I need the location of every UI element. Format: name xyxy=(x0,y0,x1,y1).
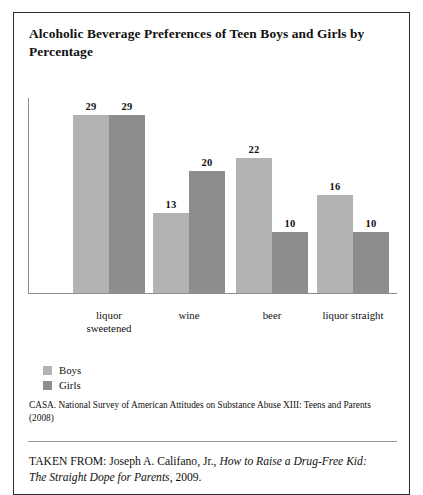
legend-label-girls: Girls xyxy=(59,380,81,391)
bar-girls-liquor-sweetened xyxy=(109,115,145,293)
figure-card: Alcoholic Beverage Preferences of Teen B… xyxy=(13,12,410,495)
bar-boys-liquor-straight xyxy=(317,195,353,293)
chart-plot-area: 2929132022101610 xyxy=(28,98,398,306)
bar-group: 2210 xyxy=(236,97,308,293)
bar-boys-wine xyxy=(153,213,189,293)
x-axis-label-liquor-straight: liquor straight xyxy=(298,309,408,322)
page-title: Alcoholic Beverage Preferences of Teen B… xyxy=(29,25,381,61)
bar-boys-beer xyxy=(236,158,272,293)
bar-value-label: 10 xyxy=(353,218,389,229)
legend-label-boys: Boys xyxy=(59,365,81,376)
source-note: CASA. National Survey of American Attitu… xyxy=(29,399,381,424)
legend-item-boys: Boys xyxy=(43,363,81,377)
taken-from-note: TAKEN FROM: Joseph A. Califano, Jr., How… xyxy=(29,454,385,486)
legend-swatch-girls-icon xyxy=(43,381,52,390)
x-axis-label-line: sweetened xyxy=(54,322,164,335)
taken-from-suffix: , 2009. xyxy=(170,471,202,484)
bar-group: 1610 xyxy=(317,97,389,293)
bar-value-label: 29 xyxy=(109,101,145,112)
bar-group: 1320 xyxy=(153,97,225,293)
bar-girls-beer xyxy=(272,232,308,293)
x-axis-tick-labels: liquorsweetenedwinebeerliquor straight xyxy=(28,309,398,343)
chart-legend: Boys Girls xyxy=(43,363,81,393)
bar-value-label: 22 xyxy=(236,144,272,155)
bar-value-label: 10 xyxy=(272,218,308,229)
bar-value-label: 29 xyxy=(73,101,109,112)
bar-group: 2929 xyxy=(73,97,145,293)
bar-group-container: 2929132022101610 xyxy=(29,98,398,294)
bar-girls-wine xyxy=(189,171,225,294)
x-axis-label-line: liquor straight xyxy=(298,309,408,322)
taken-from-prefix: TAKEN FROM: Joseph A. Califano, Jr., xyxy=(29,455,219,468)
bar-girls-liquor-straight xyxy=(353,232,389,293)
legend-swatch-boys-icon xyxy=(43,366,52,375)
legend-item-girls: Girls xyxy=(43,378,81,392)
bar-value-label: 16 xyxy=(317,181,353,192)
bar-value-label: 20 xyxy=(189,157,225,168)
section-divider xyxy=(28,441,397,442)
bar-value-label: 13 xyxy=(153,199,189,210)
bar-boys-liquor-sweetened xyxy=(73,115,109,293)
